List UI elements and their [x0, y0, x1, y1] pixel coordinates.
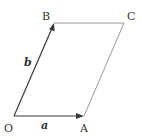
point-label-c: C: [127, 10, 135, 23]
point-label-b: B: [42, 10, 50, 23]
parallelogram-diagram: O A B C a b: [0, 0, 142, 140]
vector-label-b: b: [24, 56, 32, 69]
vector-label-a: a: [41, 119, 48, 132]
edge-ac: [84, 23, 124, 116]
arrowhead-icon: [49, 23, 54, 32]
vector-b: [14, 23, 55, 116]
vector-a: [14, 113, 84, 119]
point-label-a: A: [79, 122, 89, 135]
point-label-o: O: [4, 122, 13, 135]
arrowhead-icon: [76, 113, 84, 119]
vector-b-shaft: [14, 27, 53, 116]
